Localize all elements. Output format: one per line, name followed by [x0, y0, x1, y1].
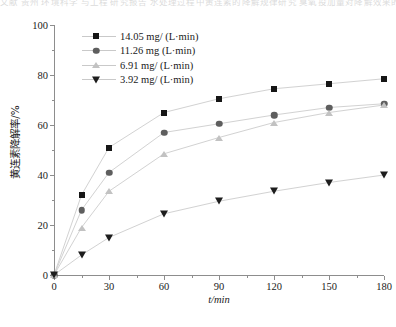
legend-marker: [82, 58, 116, 72]
x-tick-label: 60: [159, 281, 170, 292]
legend-line: [82, 65, 116, 66]
x-tick-minor: [302, 276, 303, 278]
x-axis-title: t/min: [208, 294, 230, 305]
x-tick-label: 150: [321, 281, 337, 292]
x-tick-minor: [82, 276, 83, 278]
series-line: [54, 175, 384, 275]
legend-line: [82, 50, 116, 51]
legend-item: 11.26 mg (L·min): [82, 44, 262, 59]
y-axis-title: 黄连素降解率/%: [7, 105, 22, 179]
x-tick: [384, 276, 385, 280]
legend-marker: [82, 29, 116, 43]
x-tick: [109, 276, 110, 280]
legend-line: [82, 36, 116, 37]
x-axis-title-text: t/min: [208, 294, 230, 305]
x-tick: [164, 276, 165, 280]
x-tick-label: 90: [214, 281, 225, 292]
legend-label: 3.92 mg/ (L·min): [120, 74, 193, 85]
x-tick: [54, 276, 55, 280]
x-tick: [219, 276, 220, 280]
page-fragment-text: 文献 贵州 环境科学 与工程 研究报告 水处理过程中黄连素的降解规律研究 臭氧投…: [0, 0, 396, 11]
x-tick: [329, 276, 330, 280]
series-line: [54, 105, 384, 275]
x-tick-minor: [137, 276, 138, 278]
legend: 14.05 mg/ (L·min)11.26 mg (L·min)6.91 mg…: [82, 29, 262, 87]
x-tick-minor: [247, 276, 248, 278]
series-line: [54, 104, 384, 275]
legend-marker: [82, 44, 116, 58]
legend-item: 14.05 mg/ (L·min): [82, 29, 262, 44]
y-tick-label: 20: [38, 220, 49, 231]
legend-item: 3.92 mg/ (L·min): [82, 73, 262, 88]
legend-label: 6.91 mg/ (L·min): [120, 60, 193, 71]
legend-item: 6.91 mg/ (L·min): [82, 58, 262, 73]
x-tick-label: 120: [266, 281, 282, 292]
x-tick-minor: [192, 276, 193, 278]
x-tick: [274, 276, 275, 280]
legend-label: 14.05 mg/ (L·min): [120, 31, 198, 42]
y-tick-label: 0: [43, 270, 48, 281]
legend-label: 11.26 mg (L·min): [120, 45, 195, 56]
series-line: [54, 79, 384, 275]
legend-line: [82, 79, 116, 80]
figure-berberine-degradation: 黄连素降解率/% t/min 020406080100 030609012015…: [0, 11, 396, 327]
y-tick-label: 80: [38, 70, 49, 81]
x-tick-minor: [357, 276, 358, 278]
x-tick-label: 30: [104, 281, 115, 292]
x-tick-label: 180: [376, 281, 392, 292]
legend-marker: [82, 73, 116, 87]
x-tick-label: 0: [51, 281, 56, 292]
y-tick-label: 60: [38, 120, 49, 131]
y-tick-label: 40: [38, 170, 49, 181]
y-tick-label: 100: [32, 20, 48, 31]
